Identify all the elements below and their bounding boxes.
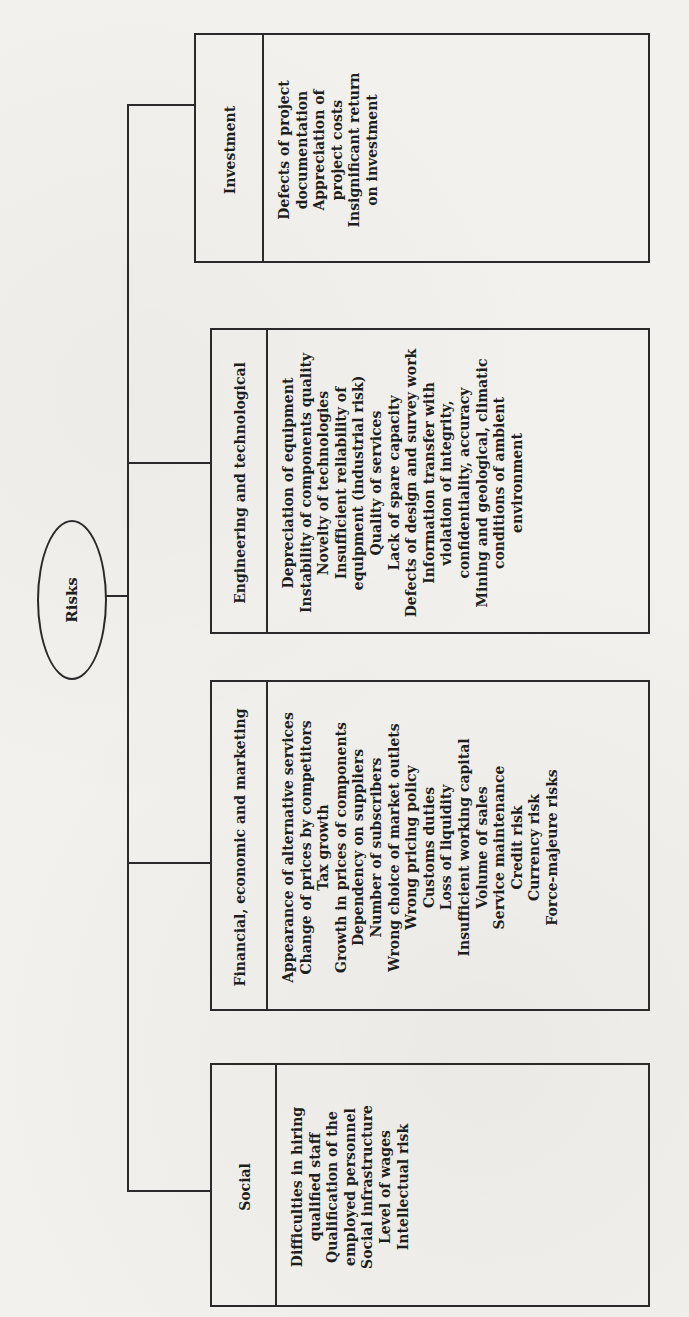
risk-item: Dependency on suppliers <box>350 749 368 946</box>
risk-item: confidentiality, accuracy <box>456 388 474 579</box>
risk-item: Tax growth <box>315 804 333 891</box>
risk-item: Social infrastructure <box>359 1105 377 1269</box>
risk-item: Appreciation of <box>311 89 329 210</box>
category-box-social: Social Difficulties in hiring qualified … <box>210 1063 650 1307</box>
risk-item: Insignificant return <box>346 73 364 228</box>
risk-item: Intellectual risk <box>395 1124 413 1250</box>
root-connector <box>106 595 128 597</box>
risk-item: Difficulties in hiring <box>289 1107 307 1267</box>
risk-item: Instability of components quality <box>298 353 316 613</box>
risks-root-node: Risks <box>37 520 107 680</box>
category-title: Financial, economic and marketing <box>212 682 268 1013</box>
risk-item: Information transfer with <box>421 382 439 584</box>
category-items: Defects of project documentation Appreci… <box>264 35 382 265</box>
root-label: Risks <box>63 577 81 622</box>
risk-item: Wrong choice of market outlets <box>386 723 404 971</box>
branch-social <box>127 1190 210 1192</box>
risk-item: Currency risk <box>526 794 544 901</box>
risk-item: Wrong pricing policy <box>403 765 421 929</box>
risk-item: Level of wages <box>377 1130 395 1244</box>
risk-item: Service maintenance <box>491 766 509 930</box>
risk-item: equipment (industrial risk) <box>350 376 368 591</box>
risk-item: Customs duties <box>421 787 439 908</box>
category-items: Depreciation of equipment Instability of… <box>268 330 526 636</box>
risk-item: Growth in prices of components <box>333 722 351 973</box>
risk-item: Quality of services <box>368 411 386 556</box>
risk-item: Insufficient working capital <box>456 738 474 956</box>
risk-item: Number of subscribers <box>368 758 386 938</box>
risk-item: Lack of spare capacity <box>386 395 404 570</box>
category-box-engineering: Engineering and technological Depreciati… <box>210 328 650 634</box>
risk-item: Mining and geological, climatic <box>474 359 492 608</box>
risk-item: conditions of ambient <box>491 397 509 569</box>
risk-item: qualified staff <box>307 1133 325 1241</box>
risk-item: Credit risk <box>509 805 527 889</box>
risk-item: Defects of project <box>276 80 294 219</box>
category-box-financial: Financial, economic and marketing Appear… <box>210 680 650 1011</box>
risk-item: Depreciation of equipment <box>280 378 298 589</box>
branch-engineering <box>127 462 210 464</box>
risk-item: Novelty of technologies <box>315 391 333 575</box>
risk-item: Force-majeure risks <box>544 769 562 925</box>
risk-item: Defects of design and survey work <box>403 349 421 618</box>
branch-investment <box>127 104 194 106</box>
category-items: Difficulties in hiring qualified staff Q… <box>277 1065 412 1309</box>
category-items: Appearance of alternative services Chang… <box>268 682 562 1013</box>
risk-item: Insufficient reliability of <box>333 387 351 579</box>
risk-item: documentation <box>294 91 312 210</box>
risk-item: employed personnel <box>342 1108 360 1266</box>
risk-item: environment <box>509 433 527 533</box>
risk-item: project costs <box>329 100 347 200</box>
risk-item: Qualification of the <box>324 1111 342 1263</box>
category-title: Social <box>212 1065 277 1309</box>
risk-item: Change of prices by competitors <box>298 720 316 974</box>
category-title: Engineering and technological <box>212 330 268 636</box>
risk-item: Loss of liquidity <box>438 785 456 911</box>
risk-item: violation of integrity, <box>438 400 456 565</box>
risk-item: Appearance of alternative services <box>280 712 298 983</box>
trunk-connector <box>127 104 129 1192</box>
branch-financial <box>127 862 210 864</box>
category-title: Investment <box>196 35 264 265</box>
category-box-investment: Investment Defects of project documentat… <box>194 33 650 263</box>
risk-item: Volume of sales <box>474 786 492 908</box>
risk-item: on investment <box>364 94 382 206</box>
